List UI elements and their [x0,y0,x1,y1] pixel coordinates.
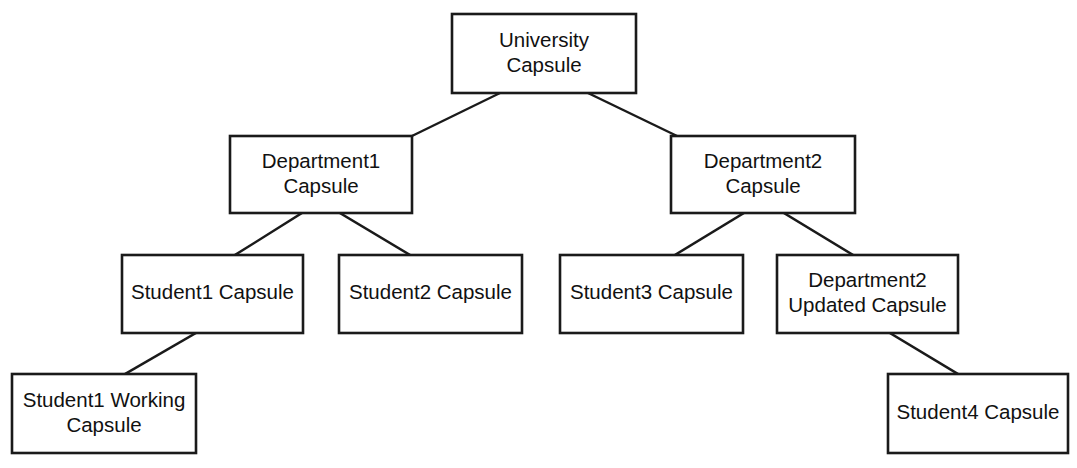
node-label-department1-line2: Capsule [283,174,358,197]
edge-department1-student2 [340,213,410,255]
node-university[interactable]: UniversityCapsule [452,14,636,93]
nodes-layer: UniversityCapsuleDepartment1CapsuleDepar… [12,14,1068,453]
node-student1working[interactable]: Student1 WorkingCapsule [12,374,196,453]
node-label-department2updated-line2: Updated Capsule [788,293,946,316]
node-label-student1-line1: Student1 Capsule [131,280,294,303]
node-label-university-line2: Capsule [506,53,581,76]
edge-university-department2 [588,93,677,136]
node-student3[interactable]: Student3 Capsule [560,255,743,333]
edge-student1-student1working [125,333,196,374]
edge-university-department1 [412,93,500,136]
node-label-student4-line1: Student4 Capsule [897,400,1060,423]
node-label-university-line1: University [499,28,590,51]
node-label-department2-line2: Capsule [725,174,800,197]
node-label-department2-line1: Department2 [704,149,823,172]
node-department1[interactable]: Department1Capsule [230,136,412,213]
capsule-hierarchy-diagram: UniversityCapsuleDepartment1CapsuleDepar… [0,0,1077,468]
node-student4[interactable]: Student4 Capsule [888,374,1068,453]
edge-department2-student3 [675,213,744,255]
node-student2[interactable]: Student2 Capsule [339,255,522,333]
edge-department2updated-student4 [890,333,958,374]
node-label-student1working-line2: Capsule [66,413,141,436]
edge-department1-student1 [235,213,302,255]
edge-department2-department2updated [784,213,853,255]
node-department2[interactable]: Department2Capsule [671,136,855,213]
node-label-student2-line1: Student2 Capsule [349,280,512,303]
node-student1[interactable]: Student1 Capsule [122,255,303,333]
node-label-department2updated-line1: Department2 [808,268,927,291]
node-department2updated[interactable]: Department2Updated Capsule [777,255,958,333]
node-label-student1working-line1: Student1 Working [23,388,186,411]
tree-diagram-canvas: UniversityCapsuleDepartment1CapsuleDepar… [0,0,1077,468]
node-label-department1-line1: Department1 [262,149,381,172]
node-label-student3-line1: Student3 Capsule [570,280,733,303]
